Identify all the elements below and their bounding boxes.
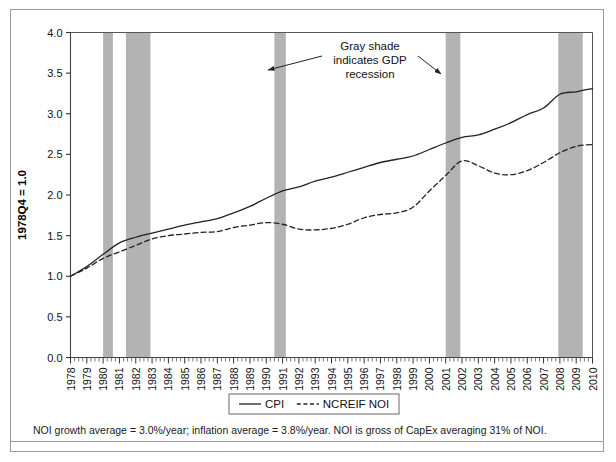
chart-figure: 0.00.51.01.52.02.53.03.54.01978Q4 = 1.01… (0, 0, 616, 462)
x-axis-tick-label: 2004 (489, 367, 501, 391)
x-axis-tick-label: 2000 (423, 367, 435, 391)
y-axis-tick-label: 0.5 (47, 311, 62, 323)
y-axis-tick-label: 2.0 (47, 189, 62, 201)
x-axis-tick-label: 1978 (65, 367, 77, 391)
recession-annotation-line: recession (345, 68, 394, 80)
legend-label-ncreif-noi: NCREIF NOI (323, 398, 389, 410)
x-axis-tick-label: 2001 (440, 367, 452, 391)
y-axis-title: 1978Q4 = 1.0 (16, 170, 28, 240)
x-axis-tick-label: 1982 (130, 367, 142, 391)
chart-canvas: 0.00.51.01.52.02.53.03.54.01978Q4 = 1.01… (0, 0, 616, 462)
x-axis-tick-label: 2009 (570, 367, 582, 391)
x-axis-group: 1978197919801981198219831984198519861987… (65, 358, 599, 391)
chart-legend: CPINCREIF NOI (229, 394, 399, 414)
y-axis-group: 0.00.51.01.52.02.53.03.54.0 (47, 27, 70, 364)
x-axis-tick-label: 1990 (260, 367, 272, 391)
y-axis-tick-label: 1.5 (47, 230, 62, 242)
y-axis-tick-label: 1.0 (47, 270, 62, 282)
y-axis-tick-label: 0.0 (47, 352, 62, 364)
y-axis-title-group: 1978Q4 = 1.0 (16, 170, 28, 240)
x-axis-tick-label: 1979 (81, 367, 93, 391)
x-axis-tick-label: 1993 (309, 367, 321, 391)
recession-annotation: Gray shadeindicates GDPrecession (268, 40, 441, 80)
recession-band (558, 33, 582, 358)
recession-shading-group (103, 33, 583, 358)
x-axis-tick-label: 2007 (538, 367, 550, 391)
x-axis-tick-label: 1980 (97, 367, 109, 391)
x-axis-tick-label: 1981 (113, 367, 125, 391)
recession-band (274, 33, 285, 358)
annotation-arrow-right (418, 56, 441, 74)
x-axis-tick-label: 2002 (456, 367, 468, 391)
x-axis-tick-label: 1985 (179, 367, 191, 391)
x-axis-tick-label: 1996 (358, 367, 370, 391)
x-axis-tick-label: 1998 (391, 367, 403, 391)
x-axis-tick-label: 1987 (211, 367, 223, 391)
chart-footnote: NOI growth average = 3.0%/year; inflatio… (33, 424, 593, 436)
x-axis-tick-label: 1986 (195, 367, 207, 391)
x-axis-tick-label: 2006 (521, 367, 533, 391)
x-axis-tick-label: 2005 (505, 367, 517, 391)
recession-band (126, 33, 150, 358)
x-axis-tick-label: 1984 (162, 367, 174, 391)
recession-annotation-line: indicates GDP (333, 54, 407, 66)
x-axis-tick-label: 1988 (228, 367, 240, 391)
legend-label-cpi: CPI (265, 398, 284, 410)
x-axis-tick-label: 2010 (587, 367, 599, 391)
recession-band (103, 33, 113, 358)
x-axis-tick-label: 1989 (244, 367, 256, 391)
x-axis-tick-label: 1983 (146, 367, 158, 391)
y-axis-tick-label: 4.0 (47, 27, 62, 39)
x-axis-tick-label: 1995 (342, 367, 354, 391)
recession-annotation-line: Gray shade (340, 40, 399, 52)
y-axis-tick-label: 2.5 (47, 148, 62, 160)
recession-band (446, 33, 461, 358)
y-axis-tick-label: 3.0 (47, 108, 62, 120)
x-axis-tick-label: 1997 (374, 367, 386, 391)
x-axis-tick-label: 2008 (554, 367, 566, 391)
x-axis-tick-label: 1999 (407, 367, 419, 391)
x-axis-tick-label: 1994 (326, 367, 338, 391)
footnote-divider (11, 441, 603, 442)
x-axis-tick-label: 1991 (277, 367, 289, 391)
x-axis-tick-label: 2003 (472, 367, 484, 391)
x-axis-tick-label: 1992 (293, 367, 305, 391)
y-axis-tick-label: 3.5 (47, 67, 62, 79)
